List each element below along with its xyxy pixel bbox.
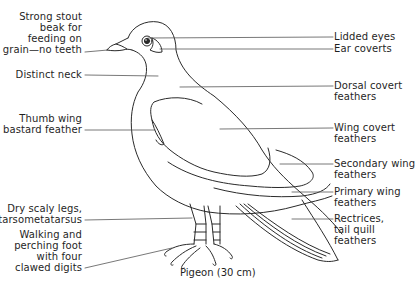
label-line: Distinct neck — [16, 69, 82, 80]
label-line: Lidded eyes — [334, 31, 395, 42]
legs — [190, 204, 220, 244]
label-line: feeding on — [3, 33, 82, 44]
label-neck: Distinct neck — [16, 69, 82, 80]
leader-lines-right — [148, 37, 333, 219]
label-line: bastard feather — [3, 124, 82, 135]
label-line: Wing covert — [334, 122, 395, 133]
label-line: beak for — [3, 22, 82, 33]
label-foot: Walking and perching foot with four claw… — [14, 229, 82, 273]
label-ear-coverts: Ear coverts — [334, 43, 392, 54]
label-thumb-wing: Thumb wing bastard feather — [3, 113, 82, 135]
label-line: feathers — [334, 91, 402, 102]
figure-caption: Pigeon (30 cm) — [180, 267, 256, 278]
label-line: tarsometatarsus — [0, 214, 82, 225]
label-line: Primary wing — [334, 186, 401, 197]
label-legs: Dry scaly legs, tarsometatarsus — [0, 203, 82, 225]
label-primary-wing: Primary wing feathers — [334, 186, 401, 208]
label-line: feathers — [334, 197, 401, 208]
label-line: Ear coverts — [334, 43, 392, 54]
label-line: feathers — [334, 235, 384, 246]
feet — [165, 244, 233, 269]
label-line: Dry scaly legs, — [0, 203, 82, 214]
body-outline — [107, 22, 342, 234]
label-eyes: Lidded eyes — [334, 31, 395, 42]
label-line: grain—no teeth — [3, 44, 82, 55]
label-line: Dorsal covert — [334, 80, 402, 91]
label-line: Strong stout — [3, 11, 82, 22]
label-secondary-wing: Secondary wing feathers — [334, 158, 415, 180]
tail — [236, 200, 338, 262]
label-rectrices: Rectrices, tail quill feathers — [334, 213, 384, 246]
wing — [151, 98, 330, 197]
label-dorsal-covert: Dorsal covert feathers — [334, 80, 402, 102]
label-line: Rectrices, — [334, 213, 384, 224]
label-line: Thumb wing — [3, 113, 82, 124]
label-line: perching foot — [14, 240, 82, 251]
label-line: feathers — [334, 169, 415, 180]
label-line: tail quill — [334, 224, 384, 235]
label-line: Secondary wing — [334, 158, 415, 169]
label-line: feathers — [334, 133, 395, 144]
label-beak: Strong stout beak for feeding on grain—n… — [3, 11, 82, 55]
label-line: Walking and — [14, 229, 82, 240]
eye — [142, 36, 152, 46]
label-line: with four — [14, 251, 82, 262]
label-line: clawed digits — [14, 262, 82, 273]
label-wing-covert: Wing covert feathers — [334, 122, 395, 144]
